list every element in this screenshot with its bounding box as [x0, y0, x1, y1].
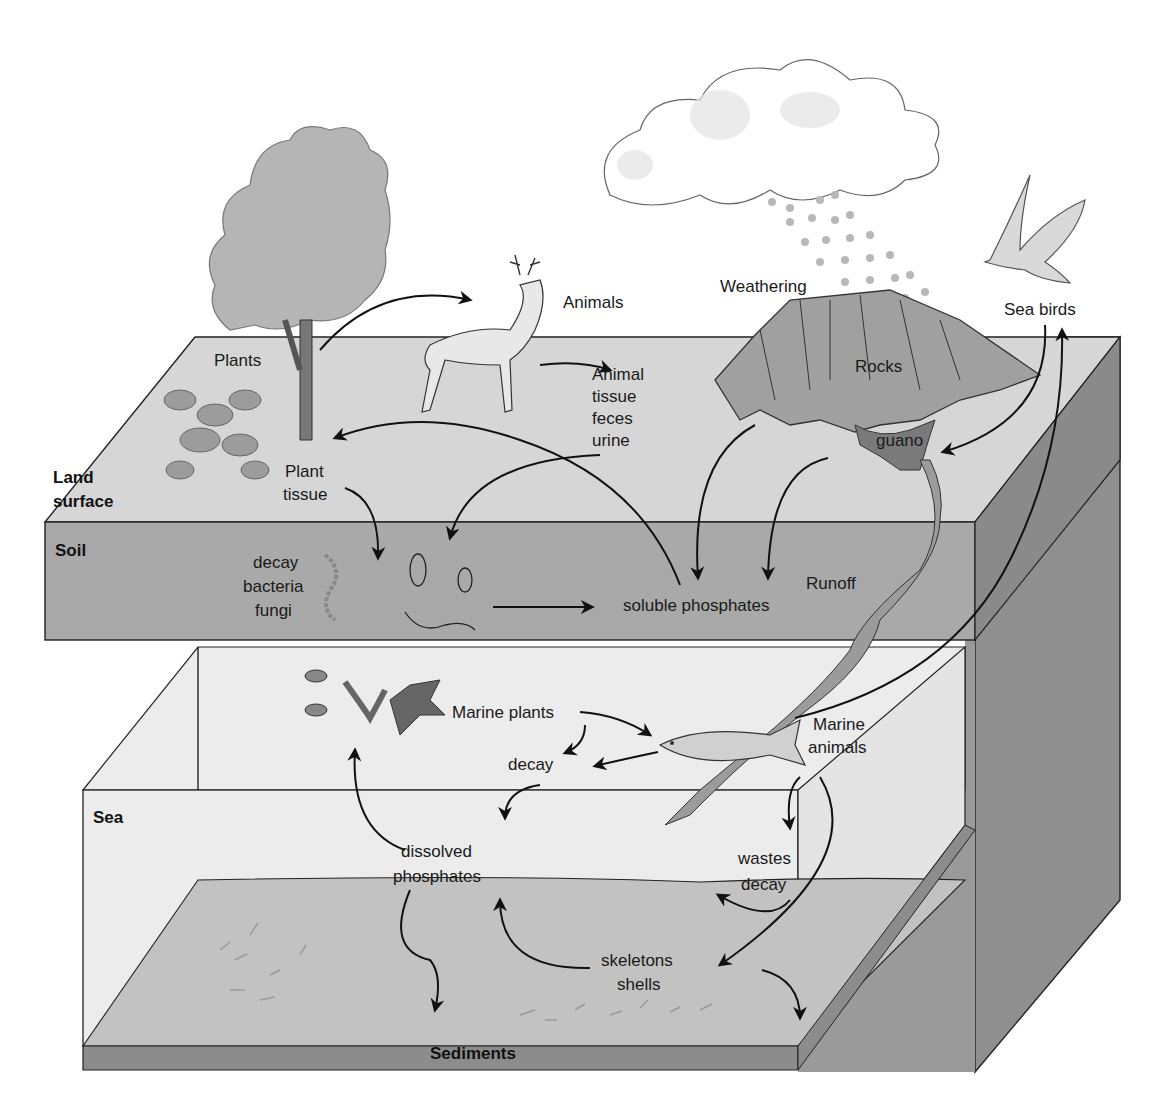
label-marine-animals-2: animals	[808, 738, 867, 757]
label-marine-animals-1: Marine	[813, 715, 865, 734]
label-marine-plants: Marine plants	[452, 703, 554, 722]
label-animal-waste-1: Animal	[592, 365, 644, 384]
label-dissolved-phosphates-2: phosphates	[393, 867, 481, 886]
label-soluble-phosphates: soluble phosphates	[623, 596, 770, 615]
label-decomposers-2: bacteria	[243, 577, 304, 596]
label-marine-decay: decay	[508, 755, 554, 774]
label-runoff: Runoff	[806, 574, 856, 593]
layer-label-sea: Sea	[93, 808, 124, 827]
layer-label-land-surface: Land	[53, 468, 94, 487]
label-animals: Animals	[563, 293, 623, 312]
label-wastes-decay-2: decay	[741, 875, 787, 894]
label-plant-tissue-2: tissue	[283, 485, 327, 504]
label-animal-waste-3: feces	[592, 409, 633, 428]
label-decomposers-1: decay	[253, 553, 299, 572]
label-sea-birds: Sea birds	[1004, 300, 1076, 319]
layer-label-land-surface-2: surface	[53, 492, 113, 511]
cloud-icon	[604, 60, 938, 205]
label-wastes-decay-1: wastes	[737, 849, 791, 868]
label-plant-tissue-1: Plant	[285, 462, 324, 481]
label-guano: guano	[876, 431, 923, 450]
label-dissolved-phosphates-1: dissolved	[401, 842, 472, 861]
label-rocks: Rocks	[855, 357, 902, 376]
layer-label-sediments: Sediments	[430, 1044, 516, 1063]
label-decomposers-3: fungi	[255, 601, 292, 620]
sea-bird-icon	[985, 175, 1085, 283]
layer-label-soil: Soil	[55, 541, 86, 560]
label-skeletons-shells-2: shells	[617, 975, 660, 994]
phosphorus-cycle-diagram: Land surface Soil Sea Sediments Plants A…	[0, 0, 1160, 1103]
label-animal-waste-4: urine	[592, 431, 630, 450]
label-plants: Plants	[214, 351, 261, 370]
label-skeletons-shells-1: skeletons	[601, 951, 673, 970]
label-weathering: Weathering	[720, 277, 807, 296]
label-animal-waste-2: tissue	[592, 387, 636, 406]
